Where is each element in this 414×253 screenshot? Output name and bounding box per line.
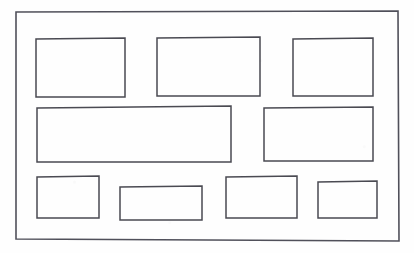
box-middle-right[interactable] bbox=[264, 107, 373, 161]
box-bottom-2[interactable] bbox=[120, 186, 202, 220]
row-top bbox=[36, 37, 373, 97]
box-middle-wide[interactable] bbox=[37, 106, 231, 162]
wireframe-canvas bbox=[0, 0, 414, 253]
box-bottom-3[interactable] bbox=[226, 176, 297, 218]
row-middle bbox=[37, 106, 373, 162]
box-bottom-4[interactable] bbox=[318, 181, 377, 218]
box-top-center[interactable] bbox=[157, 37, 260, 96]
box-top-left[interactable] bbox=[36, 38, 125, 97]
box-bottom-1[interactable] bbox=[37, 176, 99, 218]
box-top-right[interactable] bbox=[293, 38, 373, 96]
wireframe-sketch bbox=[0, 0, 414, 253]
